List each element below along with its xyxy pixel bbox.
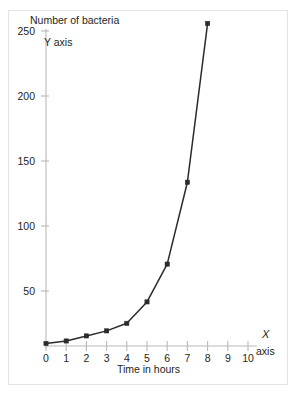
- data-point: [64, 339, 68, 343]
- data-point: [125, 321, 129, 325]
- x-axis-annotation-symbol: X: [262, 328, 269, 340]
- data-point: [165, 262, 169, 266]
- ytick-label-150: 150: [9, 155, 35, 167]
- data-point: [206, 21, 210, 25]
- ytick-label-250: 250: [9, 25, 35, 37]
- data-point: [145, 300, 149, 304]
- series-line-bacteria: [46, 23, 208, 343]
- data-point: [84, 334, 88, 338]
- data-point: [105, 329, 109, 333]
- y-axis-annotation: Y axis: [44, 36, 72, 48]
- y-tick-marks: [41, 31, 49, 291]
- line-chart-plot: [9, 11, 289, 386]
- series-markers: [44, 21, 210, 345]
- x-axis-caption: Time in hours: [0, 363, 297, 375]
- ytick-label-200: 200: [9, 90, 35, 102]
- x-axis-annotation-word: axis: [256, 345, 275, 357]
- figure-frame: 250 200 150 100 50 0 1 2 3 4 5 6 7 8 9 1…: [8, 10, 288, 385]
- data-point: [44, 341, 48, 345]
- ytick-label-100: 100: [9, 220, 35, 232]
- top-clipped-text: [0, 0, 297, 7]
- chart-title: Number of bacteria: [30, 14, 119, 26]
- ytick-label-50: 50: [9, 285, 35, 297]
- data-point: [185, 180, 189, 184]
